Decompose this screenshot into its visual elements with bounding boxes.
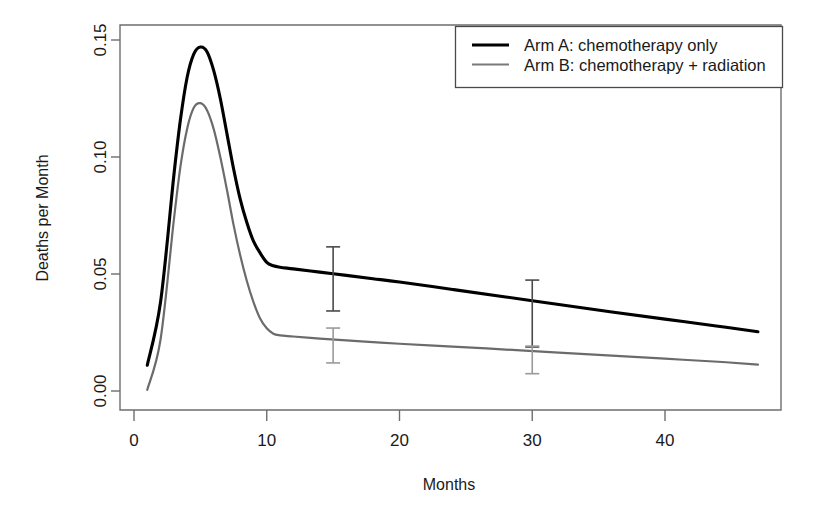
y-tick-label: 0.05 [91, 257, 110, 290]
chart-figure: 0.000.050.100.15 010203040 Deaths per Mo… [0, 0, 820, 516]
series-line-arm-b [147, 103, 758, 390]
error-bar [525, 280, 539, 347]
y-tick-label: 0.15 [91, 23, 110, 56]
chart-legend: Arm A: chemotherapy onlyArm B: chemother… [456, 27, 783, 88]
error-bar [326, 247, 340, 311]
y-axis-title: Deaths per Month [34, 154, 51, 281]
legend-label-arm-b: Arm B: chemotherapy + radiation [524, 56, 766, 74]
y-axis-ticks: 0.000.050.100.15 [91, 23, 121, 407]
y-tick-label: 0.00 [91, 374, 110, 407]
x-tick-label: 20 [390, 431, 409, 450]
x-axis-title: Months [423, 476, 475, 493]
deaths-per-month-line-chart: 0.000.050.100.15 010203040 Deaths per Mo… [0, 0, 820, 516]
y-tick-label: 0.10 [91, 140, 110, 173]
x-tick-label: 0 [129, 431, 138, 450]
series-line-arm-a [147, 47, 758, 365]
data-series-group [147, 47, 758, 390]
x-tick-label: 30 [523, 431, 542, 450]
error-bars-group [326, 247, 539, 374]
legend-label-arm-a: Arm A: chemotherapy only [524, 36, 718, 54]
x-axis-ticks: 010203040 [129, 410, 674, 450]
error-bar [326, 328, 340, 363]
x-tick-label: 10 [257, 431, 276, 450]
x-tick-label: 40 [656, 431, 675, 450]
